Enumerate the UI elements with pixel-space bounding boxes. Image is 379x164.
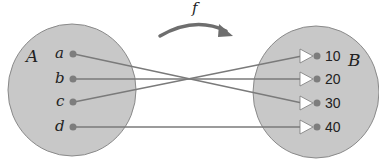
element-label-40: 40 bbox=[325, 119, 341, 135]
element-label-b: b bbox=[55, 69, 65, 87]
element-label-10: 10 bbox=[325, 48, 341, 64]
dot-10 bbox=[314, 53, 321, 60]
dot-b bbox=[70, 76, 77, 83]
dot-30 bbox=[314, 100, 321, 107]
function-mapping-diagram: A B a b c d 10 20 30 40 f bbox=[0, 0, 379, 164]
set-a-circle bbox=[8, 24, 136, 156]
dot-20 bbox=[314, 76, 321, 83]
element-label-20: 20 bbox=[325, 71, 341, 87]
dot-a bbox=[70, 51, 77, 58]
function-curved-arrow-icon bbox=[160, 25, 226, 36]
dot-c bbox=[70, 99, 77, 106]
set-b-label: B bbox=[347, 50, 361, 70]
element-label-a: a bbox=[55, 44, 64, 62]
dot-40 bbox=[314, 124, 321, 131]
element-label-d: d bbox=[55, 117, 65, 135]
element-label-c: c bbox=[56, 92, 65, 110]
function-label: f bbox=[191, 0, 200, 17]
dot-d bbox=[70, 124, 77, 131]
set-b-circle bbox=[253, 26, 379, 158]
function-arrowhead-icon bbox=[218, 24, 233, 37]
set-a-label: A bbox=[24, 46, 38, 66]
element-label-30: 30 bbox=[325, 95, 341, 111]
